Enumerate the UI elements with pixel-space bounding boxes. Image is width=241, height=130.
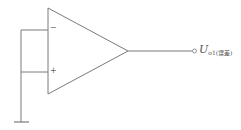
output-terminal-icon bbox=[193, 49, 197, 53]
circuit-canvas bbox=[0, 0, 241, 130]
output-label-subscript: o1(误差) bbox=[208, 49, 232, 56]
op-amp-triangle bbox=[48, 8, 128, 94]
output-label: Uo1(误差) bbox=[199, 43, 232, 57]
non-inverting-sign: + bbox=[50, 66, 57, 75]
inverting-sign: − bbox=[50, 23, 57, 32]
output-label-main: U bbox=[199, 43, 208, 56]
